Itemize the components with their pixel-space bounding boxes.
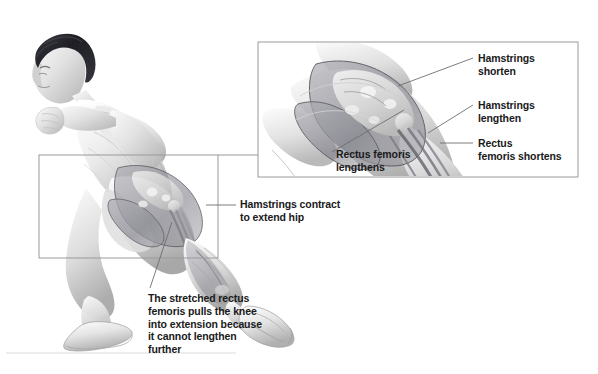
label-stretched-rectus-femoris: The stretched rectus femoris pulls the k… bbox=[148, 292, 262, 356]
label-hamstrings-lengthen: Hamstrings lengthen bbox=[478, 99, 535, 124]
label-rectus-femoris-lengthens: Rectus femoris lengthens bbox=[336, 148, 410, 173]
label-hamstrings-contract: Hamstrings contract to extend hip bbox=[240, 198, 340, 223]
label-rectus-femoris-shortens: Rectus femoris shortens bbox=[478, 137, 562, 162]
label-hamstrings-shorten: Hamstrings shorten bbox=[478, 52, 535, 77]
